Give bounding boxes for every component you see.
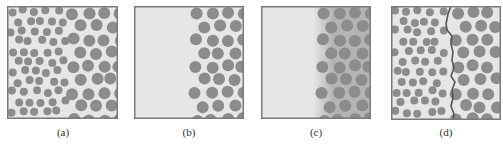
panel-c-gradient-zone bbox=[261, 6, 371, 119]
panel-d-label: (d) bbox=[426, 126, 466, 138]
panel-b-segregated-particles bbox=[134, 6, 244, 119]
panel-a-label: (a) bbox=[43, 126, 83, 138]
panel-a-mixed-particles bbox=[7, 6, 118, 119]
panel-b-label: (b) bbox=[169, 126, 209, 138]
panel-c-label: (c) bbox=[296, 126, 336, 138]
panel-d-boundary-line bbox=[391, 6, 501, 120]
